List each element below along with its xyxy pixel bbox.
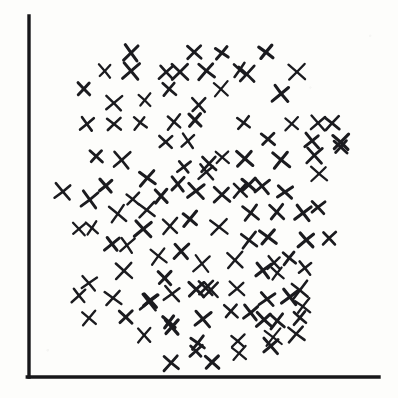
data-point-marker (254, 179, 269, 194)
data-point-marker (134, 221, 151, 237)
data-point-marker (293, 311, 306, 324)
data-point-marker (291, 281, 309, 299)
data-point-marker (215, 47, 228, 59)
data-point-marker (174, 244, 189, 259)
data-point-marker (298, 233, 314, 248)
data-point-marker (255, 262, 271, 278)
data-point-marker (172, 64, 188, 80)
data-point-marker (241, 232, 257, 248)
data-point-marker (138, 202, 155, 217)
data-point-marker (189, 282, 204, 296)
data-point-marker (171, 177, 184, 191)
data-point-marker (243, 205, 259, 221)
data-point-marker (259, 45, 274, 59)
data-point-marker (115, 263, 132, 279)
data-point-marker (237, 116, 250, 129)
data-point-marker (81, 276, 97, 291)
data-point-marker (163, 218, 178, 234)
data-point-marker (216, 151, 229, 163)
data-point-marker (78, 83, 90, 95)
data-point-marker (311, 116, 326, 131)
data-point-marker (305, 133, 320, 148)
data-point-marker (139, 171, 156, 186)
plot-canvas (0, 0, 398, 398)
data-point-marker (119, 311, 132, 324)
data-point-marker (86, 221, 98, 234)
data-point-marker (239, 66, 255, 82)
data-point-marker (270, 313, 285, 329)
data-point-marker (210, 219, 228, 235)
data-point-marker (261, 133, 274, 145)
data-point-marker (283, 252, 296, 265)
data-point-marker (229, 282, 244, 296)
data-point-marker (272, 85, 289, 103)
data-point-markers (54, 45, 349, 371)
data-point-marker (271, 266, 283, 279)
data-point-marker (311, 166, 327, 181)
data-point-marker (298, 261, 311, 274)
data-point-marker (82, 311, 96, 326)
data-point-marker (72, 223, 85, 235)
data-point-marker (270, 204, 284, 219)
data-point-marker (138, 328, 151, 343)
data-point-marker (288, 64, 305, 80)
data-point-marker (106, 95, 122, 110)
data-point-marker (195, 311, 211, 327)
data-point-marker (139, 93, 152, 106)
data-point-marker (205, 356, 218, 369)
data-point-marker (259, 292, 275, 306)
data-point-marker (158, 271, 171, 284)
data-point-marker (72, 289, 86, 303)
data-point-marker (325, 116, 340, 130)
data-point-marker (197, 63, 214, 80)
data-point-marker (273, 151, 290, 168)
data-point-marker (150, 248, 167, 265)
data-point-marker (295, 205, 311, 221)
data-point-marker (98, 64, 110, 77)
data-point-marker (285, 117, 299, 130)
data-point-marker (237, 151, 253, 167)
data-point-marker (224, 304, 237, 318)
data-point-marker (109, 205, 126, 223)
data-point-marker (182, 134, 195, 148)
data-point-marker (311, 201, 325, 214)
data-point-marker (243, 305, 258, 320)
data-point-marker (307, 148, 323, 164)
data-point-marker (227, 252, 243, 268)
data-point-marker (163, 82, 176, 95)
data-point-marker (163, 356, 179, 371)
data-point-marker (193, 255, 210, 273)
data-point-marker (124, 45, 139, 62)
data-point-marker (104, 237, 119, 252)
data-point-marker (183, 211, 198, 226)
data-point-marker (287, 326, 304, 342)
data-point-marker (231, 334, 245, 347)
data-point-marker (127, 193, 140, 205)
data-point-marker (187, 46, 201, 59)
data-point-marker (214, 81, 229, 96)
data-point-marker (214, 187, 230, 202)
data-point-marker (267, 256, 280, 269)
data-point-marker (323, 232, 336, 245)
data-point-marker (81, 191, 98, 209)
data-point-marker (54, 183, 71, 199)
data-point-marker (99, 179, 112, 192)
data-point-marker (164, 286, 181, 301)
data-point-marker (113, 151, 130, 168)
data-point-marker (159, 65, 173, 79)
data-point-marker (155, 189, 167, 203)
data-point-marker (123, 62, 140, 79)
data-point-marker (80, 117, 94, 131)
data-point-marker (177, 160, 190, 173)
data-point-marker (260, 229, 277, 245)
data-point-marker (107, 118, 121, 130)
data-point-marker (90, 150, 102, 162)
data-point-marker (189, 114, 201, 127)
data-point-marker (167, 114, 182, 130)
data-point-marker (120, 237, 135, 253)
scatter-plot-figure (0, 0, 398, 398)
data-point-marker (277, 186, 292, 198)
data-point-marker (192, 98, 205, 112)
data-point-marker (188, 183, 205, 198)
data-point-marker (159, 136, 172, 148)
